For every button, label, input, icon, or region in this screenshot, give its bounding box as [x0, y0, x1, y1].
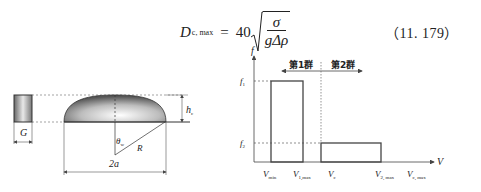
tick-vmin: Vmin	[263, 169, 277, 180]
group2-label: 第2群	[331, 59, 355, 70]
y-axis-label: f	[251, 45, 255, 56]
f1-label: f1	[240, 76, 246, 87]
label-2a: 2a	[109, 158, 119, 169]
tick-v2max: V2, max	[375, 169, 395, 181]
bar-group2	[321, 143, 381, 162]
tick-vcmax: Vc, max	[407, 169, 426, 181]
side-view-rect	[14, 95, 32, 122]
histogram-chart: f V 第1群 第2群 f1 f2 Vmin V1,max Vc V2, max…	[240, 45, 445, 181]
bar-group1	[271, 81, 303, 162]
x-axis-label: V	[437, 156, 445, 167]
label-theta: θw	[116, 136, 124, 147]
tick-vc: Vc	[328, 169, 337, 180]
label-hc: hc	[186, 104, 194, 116]
group1-label: 第1群	[289, 59, 313, 70]
figure-canvas: G θw R hc 2a f V 第1群 第2群	[0, 0, 481, 192]
label-r: R	[136, 143, 143, 153]
tick-v1max: V1,max	[293, 169, 311, 181]
bubble-diagram: G θw R hc 2a	[14, 95, 194, 175]
label-g: G	[20, 127, 27, 138]
f2-label: f2	[240, 138, 246, 149]
